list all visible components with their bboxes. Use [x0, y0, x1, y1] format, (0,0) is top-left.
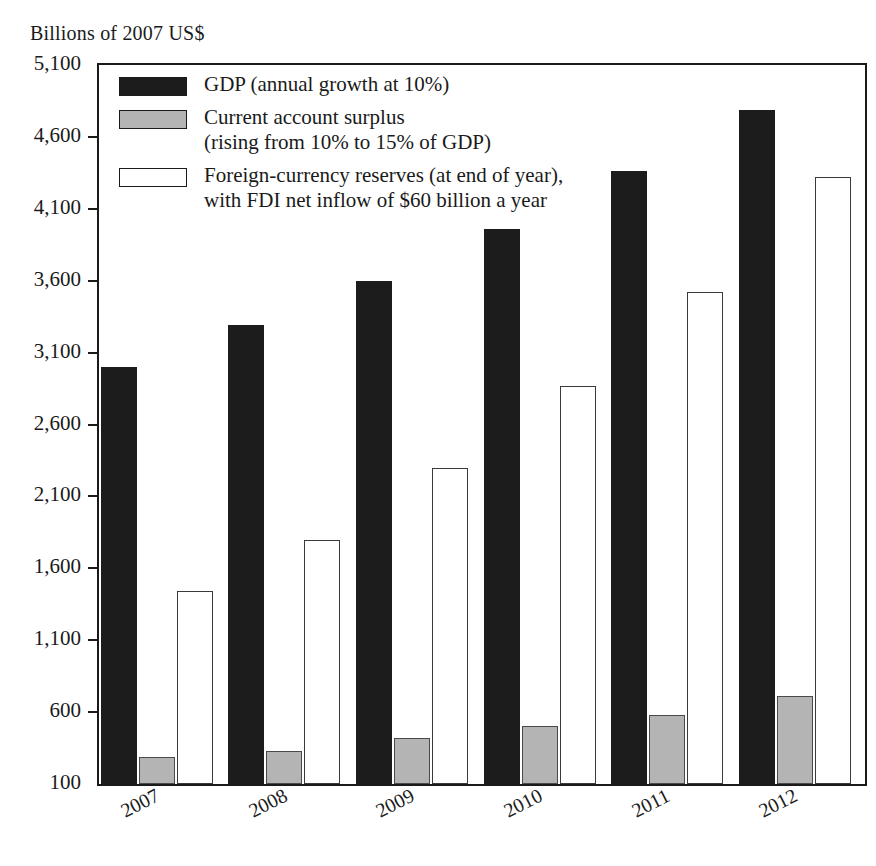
bar-reserves-2012[interactable]: [815, 177, 851, 784]
bar-reserves-2007[interactable]: [177, 591, 213, 784]
bar-gdp-2008[interactable]: [228, 325, 264, 784]
bar-surplus-2008[interactable]: [266, 751, 302, 784]
y-axis-tick-mark: [88, 136, 97, 138]
y-axis-tick-label: 3,600: [34, 267, 81, 292]
y-axis-tick-label: 2,600: [34, 411, 81, 436]
bar-reserves-2009[interactable]: [432, 468, 468, 784]
bar-reserves-2011[interactable]: [687, 292, 723, 784]
y-axis-tick-mark: [88, 495, 97, 497]
y-axis-tick-label: 4,600: [34, 123, 81, 148]
legend-item[interactable]: Foreign-currency reserves (at end of yea…: [119, 163, 719, 214]
legend-item-label: Current account surplus (rising from 10%…: [204, 105, 491, 156]
y-axis-tick-label: 4,100: [34, 195, 81, 220]
y-axis-tick-label: 2,100: [34, 482, 81, 507]
legend-item-label: GDP (annual growth at 10%): [204, 72, 449, 98]
legend-swatch-icon: [119, 110, 187, 129]
x-axis-label-2008: 2008: [245, 784, 291, 823]
y-axis-tick-mark: [88, 424, 97, 426]
x-axis: 200720082009201020112012: [99, 790, 865, 866]
bar-group: [737, 65, 865, 784]
y-axis-tick-mark: [88, 208, 97, 210]
chart-legend: GDP (annual growth at 10%)Current accoun…: [119, 72, 719, 221]
x-axis-label-2010: 2010: [500, 784, 546, 823]
y-axis-tick-mark: [88, 711, 97, 713]
bar-gdp-2009[interactable]: [356, 281, 392, 784]
y-axis-tick-label: 100: [50, 770, 82, 795]
y-axis-tick-mark: [88, 567, 97, 569]
bar-surplus-2009[interactable]: [394, 738, 430, 784]
bar-gdp-2012[interactable]: [739, 110, 775, 784]
bar-surplus-2011[interactable]: [649, 715, 685, 784]
legend-item-label: Foreign-currency reserves (at end of yea…: [204, 163, 563, 214]
bar-surplus-2012[interactable]: [777, 696, 813, 784]
bar-reserves-2010[interactable]: [560, 386, 596, 784]
bar-gdp-2010[interactable]: [484, 229, 520, 784]
bar-gdp-2011[interactable]: [611, 171, 647, 784]
y-axis: 5,1004,6004,1003,6003,1002,6002,1001,600…: [0, 0, 97, 866]
y-axis-tick-label: 5,100: [34, 51, 81, 76]
y-axis-tick-label: 1,100: [34, 626, 81, 651]
x-axis-label-2009: 2009: [372, 784, 418, 823]
bar-gdp-2007[interactable]: [101, 367, 137, 784]
legend-swatch-icon: [119, 77, 187, 96]
legend-swatch-icon: [119, 168, 187, 187]
y-axis-tick-label: 3,100: [34, 339, 81, 364]
bar-surplus-2010[interactable]: [522, 726, 558, 784]
y-axis-tick-label: 600: [50, 698, 82, 723]
bar-chart: Billions of 2007 US$ 5,1004,6004,1003,60…: [0, 0, 876, 866]
y-axis-tick-label: 1,600: [34, 554, 81, 579]
y-axis-tick-mark: [88, 280, 97, 282]
legend-item[interactable]: Current account surplus (rising from 10%…: [119, 105, 719, 156]
bar-reserves-2008[interactable]: [304, 540, 340, 784]
y-axis-tick-mark: [88, 352, 97, 354]
x-axis-label-2011: 2011: [628, 784, 673, 822]
x-axis-label-2012: 2012: [755, 784, 801, 823]
x-axis-label-2007: 2007: [117, 784, 163, 823]
legend-item[interactable]: GDP (annual growth at 10%): [119, 72, 719, 98]
y-axis-tick-mark: [88, 639, 97, 641]
bar-surplus-2007[interactable]: [139, 757, 175, 784]
